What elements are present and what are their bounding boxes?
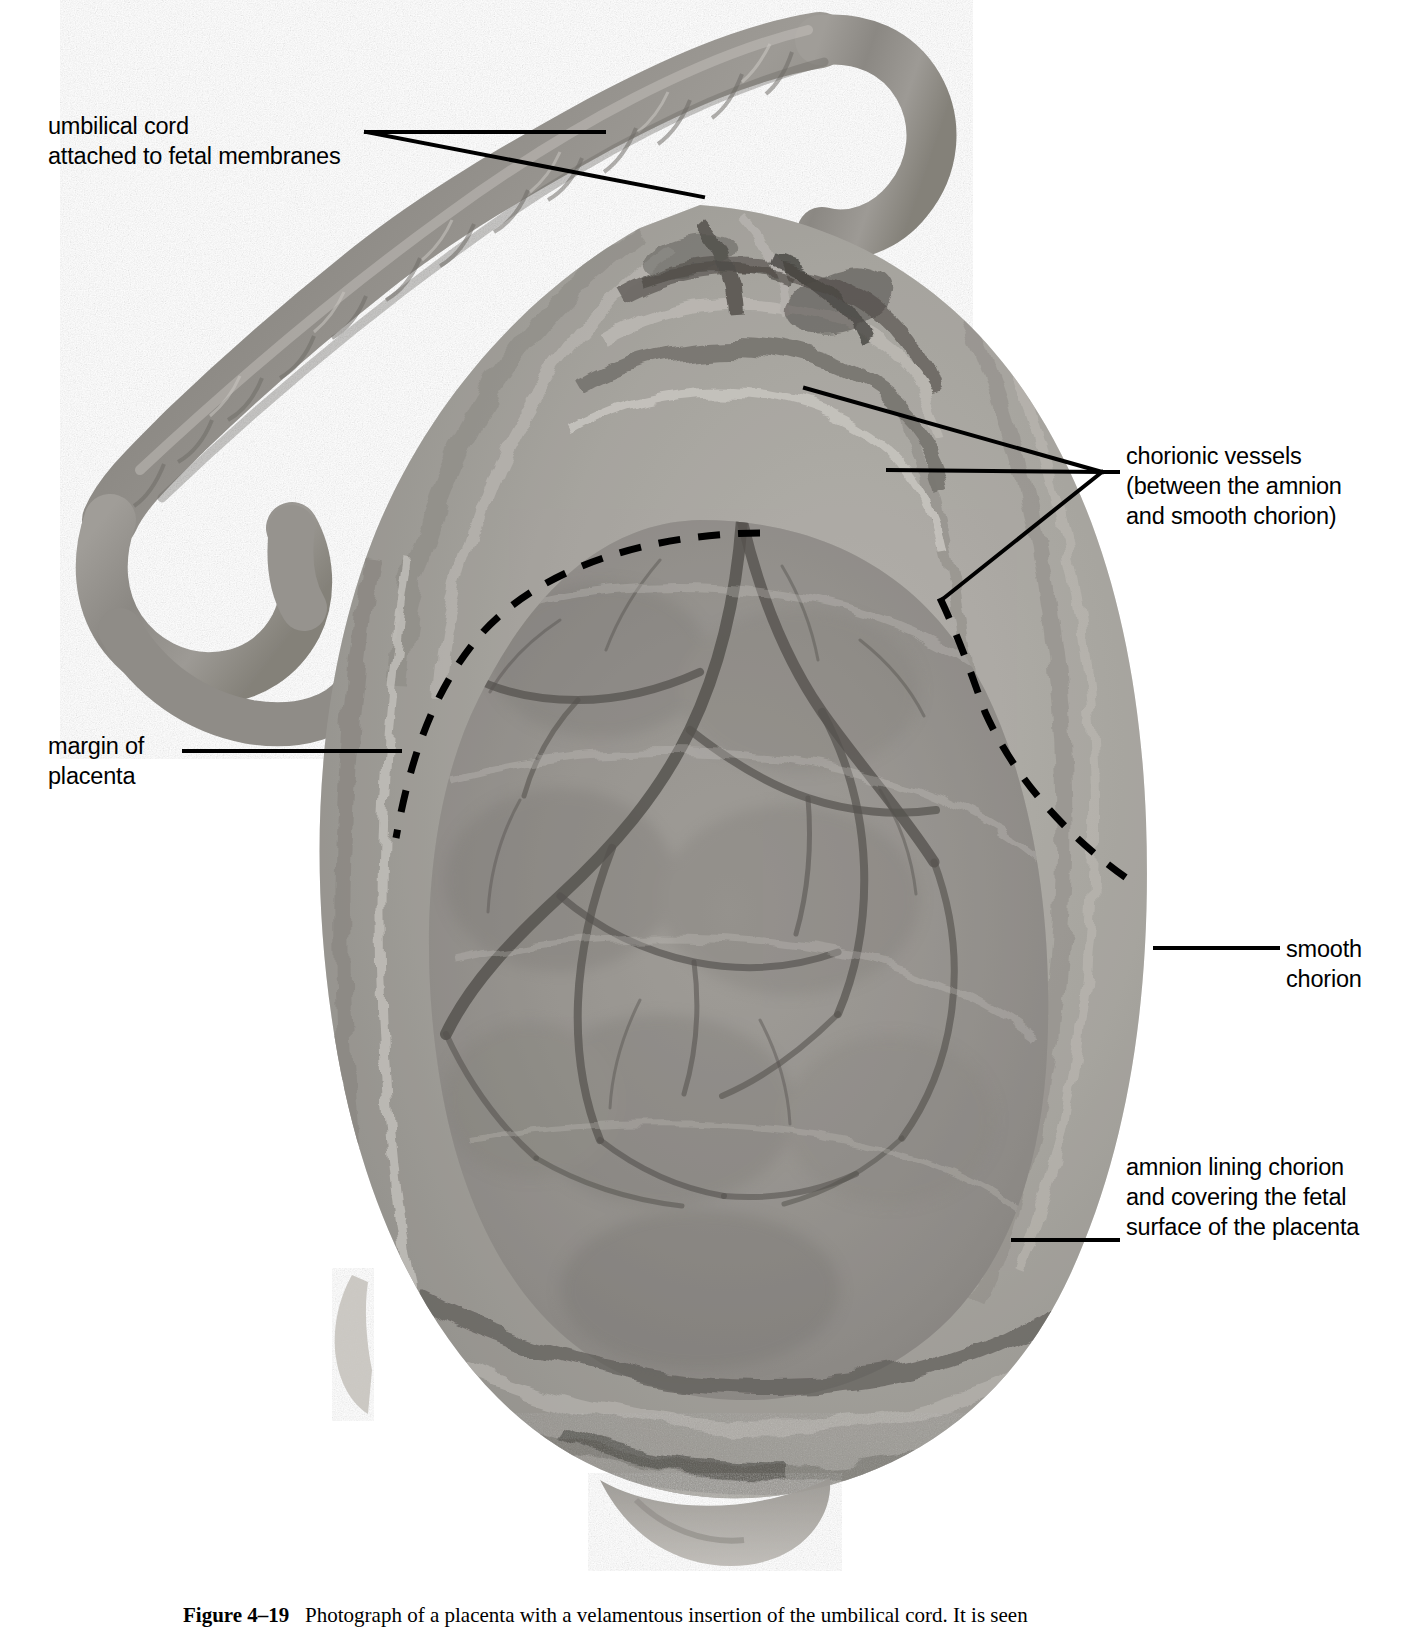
chorionic-vessels-label: chorionic vessels(between the amnionand … [1126,441,1342,531]
chorionic-vessels-label-line-1: chorionic vessels [1126,441,1342,471]
smooth-chorion-label-line-1: smooth [1286,934,1362,964]
figure-number: Figure 4–19 [183,1603,289,1627]
figure-caption: Figure 4–19 Photograph of a placenta wit… [183,1602,1283,1629]
amnion-lining-chorion-label-line-1: amnion lining chorion [1126,1152,1359,1182]
leader-chorionic-vessels-2 [888,470,1102,472]
smooth-chorion-label: smoothchorion [1286,934,1362,994]
umbilical-cord-label: umbilical cordattached to fetal membrane… [48,111,340,171]
figure-caption-text: Photograph of a placenta with a velament… [305,1603,1028,1627]
umbilical-cord-label-line-1: umbilical cord [48,111,340,141]
amnion-lining-chorion-label-line-3: surface of the placenta [1126,1212,1359,1242]
margin-of-placenta-label: margin ofplacenta [48,731,144,791]
amnion-lining-chorion-label: amnion lining chorionand covering the fe… [1126,1152,1359,1242]
chorionic-vessels-label-line-3: and smooth chorion) [1126,501,1342,531]
amnion-lining-chorion-label-line-2: and covering the fetal [1126,1182,1359,1212]
margin-of-placenta-label-line-1: margin of [48,731,144,761]
umbilical-cord-label-line-2: attached to fetal membranes [48,141,340,171]
margin-of-placenta-label-line-2: placenta [48,761,144,791]
smooth-chorion-label-line-2: chorion [1286,964,1362,994]
chorionic-vessels-label-line-2: (between the amnion [1126,471,1342,501]
